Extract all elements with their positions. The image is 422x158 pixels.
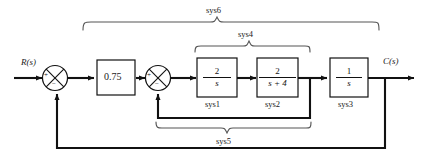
label-sys1: sys1: [205, 100, 220, 109]
brace-sys6: [83, 17, 379, 30]
label-sys2: sys2: [265, 100, 280, 109]
summer-2-plus-sign: +: [147, 72, 151, 79]
gain-value: 0.75: [104, 72, 122, 82]
summer-1-minus-sign: −: [52, 81, 56, 88]
block-diagram-canvas: R(s) C(s) 0.75 2 s 2 s + 4 1 s sys1 sys2…: [0, 0, 422, 158]
input-label: R(s): [21, 58, 36, 67]
label-sys4: sys4: [238, 30, 253, 39]
label-sys6: sys6: [206, 6, 221, 15]
summer-1-plus-sign: +: [44, 72, 48, 79]
sys2-numerator: 2: [273, 67, 282, 76]
brace-sys5: [156, 122, 311, 133]
summer-2-minus-sign: −: [155, 81, 159, 88]
sys1-denominator: s: [213, 79, 221, 88]
sys3-denominator: s: [345, 79, 353, 88]
sys1-transfer-function: 2 s: [203, 63, 231, 92]
sys2-transfer-function: 2 s + 4: [259, 63, 296, 92]
label-sys3: sys3: [338, 100, 353, 109]
label-sys5: sys5: [216, 137, 231, 146]
sys3-transfer-function: 1 s: [336, 63, 362, 92]
sys2-denominator: s + 4: [266, 79, 289, 88]
brace-sys4: [195, 41, 310, 52]
sys1-numerator: 2: [213, 67, 222, 76]
output-label: C(s): [383, 57, 399, 66]
sys3-numerator: 1: [345, 67, 354, 76]
